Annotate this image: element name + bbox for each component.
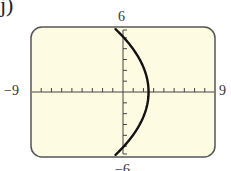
- calculator-screen: [0, 0, 231, 171]
